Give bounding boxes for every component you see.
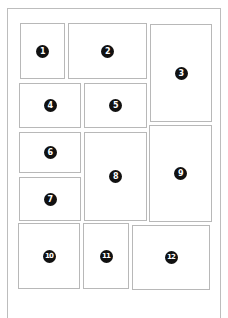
number-badge-7: 7 — [44, 193, 57, 206]
number-badge-4: 4 — [44, 99, 57, 112]
panel-12: 12 — [132, 225, 210, 290]
number-badge-10: 10 — [43, 250, 56, 263]
number-badge-3: 3 — [175, 67, 188, 80]
panel-4: 4 — [19, 83, 81, 128]
panel-5: 5 — [84, 83, 147, 128]
panel-7: 7 — [19, 177, 81, 221]
number-badge-1: 1 — [36, 45, 49, 58]
panel-10: 10 — [18, 223, 80, 289]
number-badge-8: 8 — [109, 170, 122, 183]
number-badge-2: 2 — [101, 45, 114, 58]
number-badge-6: 6 — [44, 146, 57, 159]
panel-8: 8 — [84, 132, 147, 221]
panel-9: 9 — [149, 125, 212, 222]
panel-2: 2 — [68, 23, 147, 79]
number-badge-9: 9 — [174, 167, 187, 180]
panel-6: 6 — [19, 132, 81, 173]
panel-3: 3 — [150, 24, 212, 122]
number-badge-12: 12 — [165, 251, 178, 264]
panel-11: 11 — [83, 223, 129, 289]
number-badge-5: 5 — [109, 99, 122, 112]
number-badge-11: 11 — [100, 250, 113, 263]
panel-1: 1 — [20, 23, 65, 79]
